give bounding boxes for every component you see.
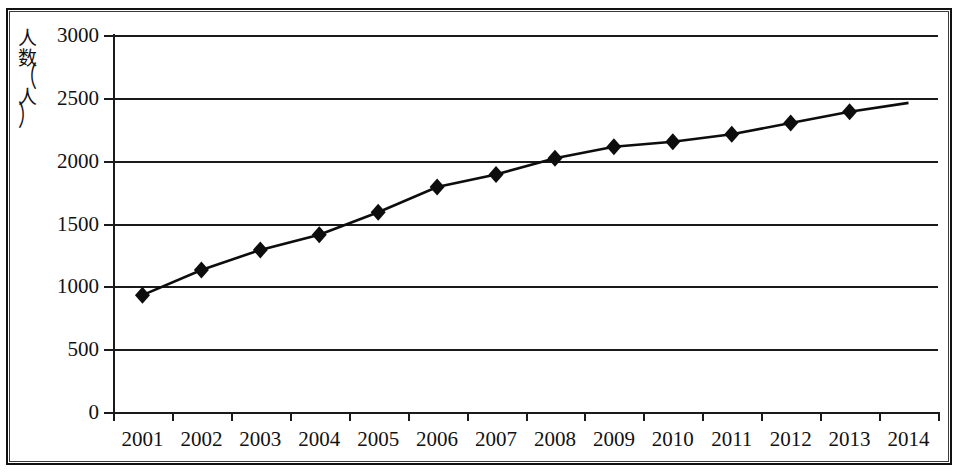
- series-line: [143, 103, 909, 295]
- data-point-2005: [371, 204, 386, 221]
- x-tick-mark-5: [408, 412, 410, 421]
- x-tick-mark-0: [113, 412, 115, 421]
- y-tick-label-2000: 2000: [37, 148, 99, 173]
- x-tick-label-2014: 2014: [874, 427, 944, 452]
- data-point-2002: [194, 261, 209, 278]
- y-tick-mark-2000: [104, 161, 113, 163]
- x-tick-mark-6: [467, 412, 469, 421]
- data-point-2011: [724, 126, 739, 143]
- plot-area: 050010001500200025003000 200120022003200…: [113, 35, 938, 412]
- x-tick-mark-1: [172, 412, 174, 421]
- x-tick-mark-2: [231, 412, 233, 421]
- y-tick-label-0: 0: [37, 400, 99, 425]
- y-tick-label-1000: 1000: [37, 274, 99, 299]
- data-point-2012: [783, 114, 798, 131]
- data-point-2003: [253, 241, 268, 258]
- data-point-2001: [135, 287, 150, 304]
- data-series-layer: [113, 35, 938, 412]
- x-tick-mark-8: [584, 412, 586, 421]
- data-point-2013: [842, 103, 857, 120]
- x-tick-mark-9: [643, 412, 645, 421]
- data-point-2008: [547, 150, 562, 167]
- data-point-2007: [489, 166, 504, 183]
- data-point-2006: [430, 179, 445, 196]
- y-tick-label-500: 500: [37, 337, 99, 362]
- y-tick-label-2500: 2500: [37, 85, 99, 110]
- data-point-2004: [312, 226, 327, 243]
- y-tick-mark-0: [104, 412, 113, 414]
- y-tick-mark-3000: [104, 35, 113, 37]
- x-tick-mark-10: [702, 412, 704, 421]
- data-point-2009: [606, 138, 621, 155]
- x-tick-mark-13: [879, 412, 881, 421]
- y-tick-mark-1000: [104, 286, 113, 288]
- x-tick-mark-3: [290, 412, 292, 421]
- data-point-2010: [665, 133, 680, 150]
- y-tick-label-1500: 1500: [37, 211, 99, 236]
- x-tick-mark-11: [761, 412, 763, 421]
- x-tick-mark-7: [526, 412, 528, 421]
- y-tick-mark-500: [104, 349, 113, 351]
- x-tick-mark-12: [820, 412, 822, 421]
- chart-page: 人 数 （ 人 ） 050010001500200025003000 20012…: [0, 0, 961, 472]
- y-tick-mark-1500: [104, 224, 113, 226]
- y-tick-label-3000: 3000: [37, 23, 99, 48]
- x-tick-mark-4: [349, 412, 351, 421]
- y-tick-mark-2500: [104, 98, 113, 100]
- x-tick-mark-14: [938, 412, 940, 421]
